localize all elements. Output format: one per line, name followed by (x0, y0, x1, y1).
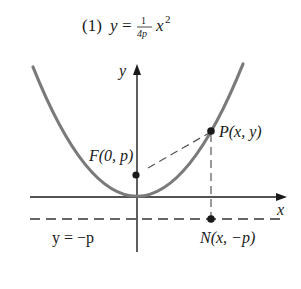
point-n (207, 215, 215, 223)
equation-equals: = (122, 16, 132, 35)
equation-lhs: y (108, 16, 118, 35)
point-n-label: N(x, −p) (199, 229, 255, 247)
focus-label: F(0, p) (88, 147, 133, 165)
y-axis-label: y (117, 62, 127, 80)
point-p (207, 127, 215, 135)
directrix-label: y = −p (52, 229, 94, 247)
parabola-diagram: (1) y = 1 4p x 2 y x F(0, p) P(x, y) N(x… (0, 0, 301, 289)
equation-exponent: 2 (165, 13, 171, 25)
point-p-label: P(x, y) (218, 123, 262, 141)
focus-point (132, 171, 139, 178)
x-axis-arrow-icon (276, 193, 287, 201)
x-axis-label: x (276, 201, 284, 218)
fraction-numerator: 1 (141, 15, 146, 26)
equation-variable: x (155, 16, 164, 35)
y-axis-arrow-icon (133, 64, 141, 75)
equation-number: (1) (82, 16, 102, 35)
fraction-denominator: 4p (137, 28, 147, 39)
equation-title: (1) y = 1 4p x 2 (82, 13, 171, 39)
